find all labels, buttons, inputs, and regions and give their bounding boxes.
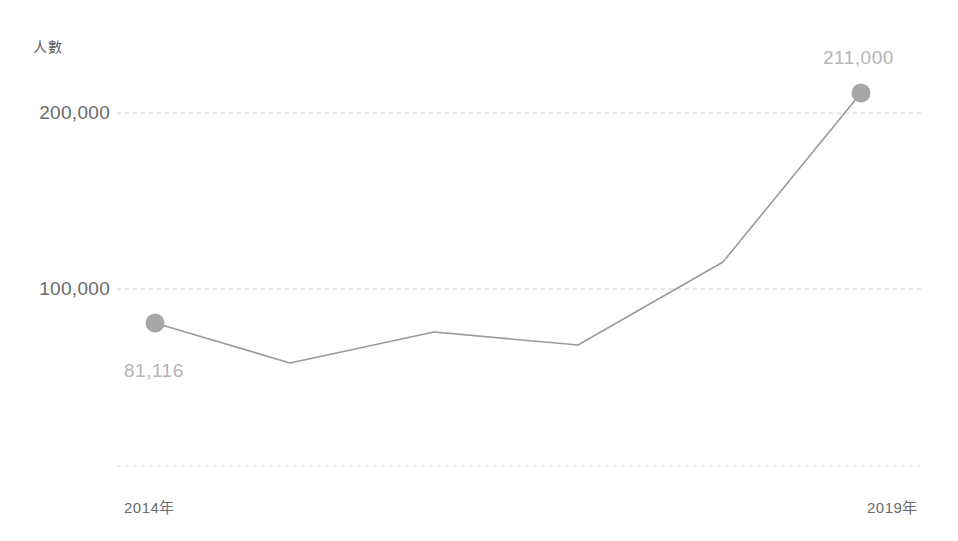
chart-screenshot: ｜數｜近年來的人數變化趨勢，2014年至2019年統計資料 人數 200,000… [0,0,958,541]
data-point-marker-first[interactable] [146,314,165,333]
plot-svg [0,0,958,541]
data-point-marker-last[interactable] [852,84,871,103]
series-line-people-count [155,93,861,363]
line-chart: 人數 200,000 100,000 2014年 2019年 81,116 21… [0,0,958,541]
